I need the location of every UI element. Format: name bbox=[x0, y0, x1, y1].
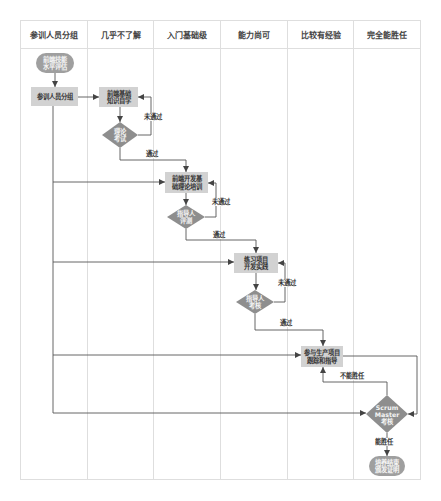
start-terminator: 前端技能 水平评估 bbox=[36, 53, 74, 73]
label-mentor-review-fail: 未通过 bbox=[211, 198, 231, 206]
flow-connectors bbox=[0, 0, 441, 501]
label-scrum-review-fail: 不能胜任 bbox=[339, 372, 365, 380]
grouping-process: 参训人员分组 bbox=[31, 87, 78, 106]
label-scrum-review-pass: 能胜任 bbox=[374, 438, 394, 446]
basic-training-process: 前端开发基 础理论培训 bbox=[165, 172, 208, 193]
label-theory-exam-pass: 通过 bbox=[145, 150, 159, 158]
practice-project-process: 练习项目 开发实践 bbox=[234, 253, 278, 273]
production-project-process: 参与生产项目 跟踪和指导 bbox=[301, 346, 343, 367]
end-terminator: 培养结束 颁发证明 bbox=[369, 456, 405, 476]
label-mentor-review-pass: 通过 bbox=[212, 231, 226, 239]
self-study-process: 前端基础 知识自学 bbox=[99, 87, 138, 107]
label-theory-exam-fail: 未通过 bbox=[143, 113, 163, 121]
label-mentor-assessment-fail: 未通过 bbox=[277, 279, 297, 287]
label-mentor-assessment-pass: 通过 bbox=[279, 319, 293, 327]
